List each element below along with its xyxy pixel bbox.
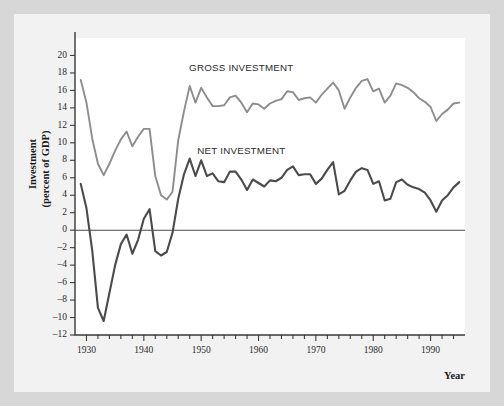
plot-background: [75, 38, 465, 335]
y-tick-label: 8: [62, 154, 67, 164]
y-tick-label: 16: [58, 85, 68, 95]
chart-figure: –12–10–8–6–4–202468101214161820193019401…: [14, 14, 490, 392]
y-tick-label: –12: [52, 329, 68, 339]
chart-canvas: –12–10–8–6–4–202468101214161820193019401…: [14, 14, 490, 392]
y-tick-label: –2: [57, 242, 68, 252]
x-tick-label: 1960: [249, 345, 268, 355]
x-tick-label: 1990: [421, 345, 440, 355]
x-tick-label: 1930: [77, 345, 96, 355]
series-annotation-gross: GROSS INVESTMENT: [189, 62, 293, 73]
x-tick-label: 1940: [134, 345, 153, 355]
y-tick-label: 2: [62, 207, 67, 217]
y-tick-label: 18: [58, 67, 68, 77]
x-tick-label: 1950: [192, 345, 211, 355]
y-tick-label: –6: [57, 277, 68, 287]
y-tick-label: 6: [62, 172, 67, 182]
series-annotation-net: NET INVESTMENT: [197, 145, 285, 156]
x-tick-label: 1970: [306, 345, 325, 355]
y-tick-label: 4: [62, 189, 67, 199]
y-tick-label: –8: [57, 294, 68, 304]
y-tick-label: 10: [58, 137, 68, 147]
y-tick-label: –10: [52, 312, 68, 322]
y-tick-label: –4: [57, 259, 68, 269]
investment-line-chart: –12–10–8–6–4–202468101214161820193019401…: [14, 14, 490, 392]
y-tick-label: 0: [62, 224, 67, 234]
y-tick-label: 12: [58, 120, 68, 130]
y-axis-title-line1: Investment: [27, 138, 38, 189]
x-axis-title: Year: [444, 370, 465, 381]
x-tick-label: 1980: [364, 345, 383, 355]
y-tick-label: 20: [58, 50, 68, 60]
y-tick-label: 14: [58, 102, 68, 112]
y-axis-title-line2: (percent of GDP): [40, 130, 52, 207]
